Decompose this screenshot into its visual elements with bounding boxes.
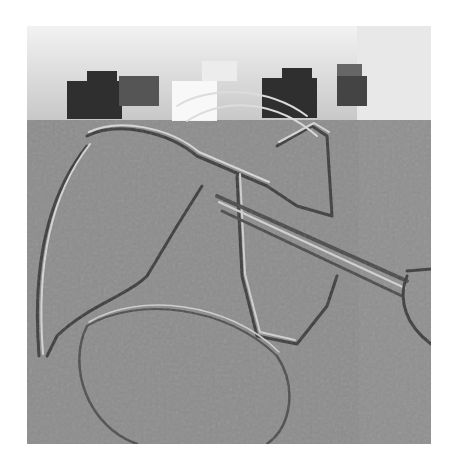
filtered-photo — [27, 26, 431, 444]
texture-noise — [27, 120, 431, 444]
